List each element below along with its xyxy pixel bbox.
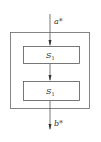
- block-s1-bottom-label: S1: [46, 87, 55, 97]
- input-label: a*: [54, 17, 63, 26]
- connector-arrowhead-icon: [49, 75, 52, 81]
- input-arrowhead-icon: [49, 40, 52, 46]
- block-s1-top-label: S1: [46, 51, 55, 61]
- block-diagram: a* S1 S1 b*: [0, 0, 101, 142]
- output-arrowhead-icon: [49, 124, 52, 130]
- output-label: b*: [54, 119, 63, 128]
